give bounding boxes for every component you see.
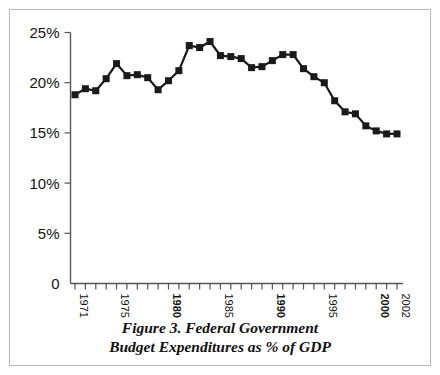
x-axis-tick-label: 2002 (400, 294, 412, 318)
data-point-marker (103, 75, 110, 82)
data-point-marker (165, 77, 172, 84)
data-point-marker (217, 52, 224, 59)
figure-container: 05%10%15%20%25% 197119751980198519901995… (0, 0, 440, 375)
y-axis-tick-label: 20% (29, 74, 59, 91)
data-point-marker (92, 87, 99, 94)
data-point-marker (186, 42, 193, 49)
data-point-marker (321, 79, 328, 86)
data-point-marker (113, 60, 120, 67)
caption-line-2: Budget Expenditures as % of GDP (14, 337, 426, 356)
x-axis-tick-label: 1995 (327, 294, 339, 318)
y-axis: 05%10%15%20%25% (29, 24, 70, 292)
y-axis-tick-label: 10% (29, 175, 59, 192)
data-point-marker (144, 74, 151, 81)
data-point-marker (279, 51, 286, 58)
caption-line-1: Figure 3. Federal Government (14, 318, 426, 337)
data-point-marker (227, 53, 234, 60)
data-point-markers (72, 38, 401, 137)
data-point-marker (310, 73, 317, 80)
data-point-marker (175, 67, 182, 74)
y-axis-tick-label: 5% (38, 225, 60, 242)
x-axis-tick-label: 1985 (223, 294, 235, 318)
x-axis-tick-label: 1980 (171, 294, 183, 318)
data-point-marker (300, 65, 307, 72)
data-point-marker (123, 72, 130, 79)
data-point-marker (196, 44, 203, 51)
data-point-marker (342, 108, 349, 115)
data-point-marker (134, 71, 141, 78)
data-point-marker (248, 64, 255, 71)
y-axis-tick-label: 0 (51, 275, 59, 292)
data-point-marker (258, 63, 265, 70)
y-axis-tick-label: 25% (29, 24, 59, 41)
data-point-marker (331, 97, 338, 104)
y-axis-tick-label: 15% (29, 124, 59, 141)
data-point-marker (155, 86, 162, 93)
data-point-marker (269, 57, 276, 64)
data-point-marker (373, 127, 380, 134)
x-axis-tick-label: 2000 (379, 294, 391, 318)
x-axis-tick-label: 1990 (275, 294, 287, 318)
data-point-marker (383, 130, 390, 137)
data-series-line (75, 42, 397, 134)
data-point-marker (290, 51, 297, 58)
data-point-marker (72, 91, 79, 98)
data-point-marker (238, 55, 245, 62)
data-point-marker (362, 122, 369, 129)
data-point-marker (207, 38, 214, 45)
x-axis-tick-label: 1975 (119, 294, 131, 318)
x-axis-tick-label: 1971 (78, 294, 90, 318)
figure-caption: Figure 3. Federal Government Budget Expe… (14, 318, 426, 356)
x-axis: 19711975198019851990199520002002 (71, 284, 412, 318)
data-point-marker (82, 85, 89, 92)
data-point-marker (394, 130, 401, 137)
data-point-marker (352, 110, 359, 117)
